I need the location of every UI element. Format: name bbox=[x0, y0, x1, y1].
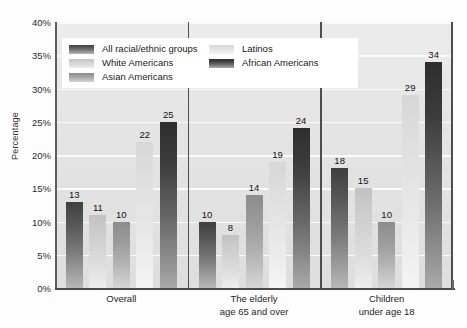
legend-label: White Americans bbox=[102, 56, 173, 70]
legend-spacer bbox=[209, 70, 359, 84]
legend-swatch-icon bbox=[209, 59, 234, 68]
legend-label: All racial/ethnic groups bbox=[102, 42, 198, 56]
x-category-label: Overall bbox=[106, 292, 136, 305]
x-category-label-line2: under age 18 bbox=[359, 305, 415, 318]
bar-value-label: 19 bbox=[272, 149, 283, 160]
bar-value-label: 15 bbox=[358, 175, 369, 186]
legend-item: Latinos bbox=[209, 42, 359, 56]
x-category-label-line1: Overall bbox=[106, 293, 136, 304]
bar: 15 bbox=[355, 188, 372, 288]
bar: 8 bbox=[222, 235, 239, 288]
bar-value-label: 34 bbox=[428, 49, 439, 60]
bar: 29 bbox=[402, 95, 419, 288]
bar: 22 bbox=[136, 142, 153, 288]
legend-swatch-icon bbox=[69, 59, 94, 68]
bar-value-label: 22 bbox=[140, 129, 151, 140]
y-tick-label: 25% bbox=[18, 116, 51, 127]
legend-item: White Americans bbox=[69, 56, 209, 70]
bar: 13 bbox=[66, 202, 83, 288]
bar-value-label: 10 bbox=[116, 209, 127, 220]
bar: 24 bbox=[293, 128, 310, 288]
x-axis-end-tick bbox=[452, 280, 454, 289]
x-category-label-line1: The elderly bbox=[230, 293, 277, 304]
bar-value-label: 11 bbox=[93, 202, 103, 213]
x-axis-line bbox=[55, 288, 455, 290]
bar-chart-figure: Percentage 0%5%10%15%20%25%30%35%40% 131… bbox=[0, 0, 467, 328]
bar: 10 bbox=[199, 222, 216, 289]
legend-item: Asian Americans bbox=[69, 70, 209, 84]
x-category-label-line2: age 65 and over bbox=[220, 305, 289, 318]
legend-swatch-icon bbox=[69, 73, 94, 82]
y-axis-line bbox=[55, 22, 57, 289]
y-tick-label: 5% bbox=[18, 249, 51, 260]
x-category-label: Childrenunder age 18 bbox=[359, 292, 415, 318]
x-axis-category-labels: OverallThe elderlyage 65 and overChildre… bbox=[55, 292, 453, 328]
y-tick-label: 30% bbox=[18, 83, 51, 94]
legend-item: All racial/ethnic groups bbox=[69, 42, 209, 56]
legend-label: African Americans bbox=[242, 56, 319, 70]
bar-value-label: 29 bbox=[405, 82, 416, 93]
y-tick-label: 10% bbox=[18, 216, 51, 227]
bar-value-label: 8 bbox=[228, 222, 233, 233]
legend-label: Latinos bbox=[242, 42, 273, 56]
bar-value-label: 10 bbox=[202, 209, 213, 220]
y-tick-label: 20% bbox=[18, 150, 51, 161]
y-tick-label: 40% bbox=[18, 17, 51, 28]
y-tick-label: 15% bbox=[18, 183, 51, 194]
legend-swatch-icon bbox=[209, 45, 234, 54]
chart-legend: All racial/ethnic groupsLatinosWhite Ame… bbox=[62, 38, 358, 88]
bar-value-label: 25 bbox=[163, 109, 174, 120]
x-category-label-line1: Children bbox=[369, 293, 404, 304]
legend-label: Asian Americans bbox=[102, 70, 173, 84]
y-tick-label: 0% bbox=[18, 283, 51, 294]
bar-value-label: 24 bbox=[296, 115, 307, 126]
bar: 11 bbox=[89, 215, 106, 288]
x-category-label: The elderlyage 65 and over bbox=[220, 292, 289, 318]
bar: 19 bbox=[269, 162, 286, 288]
bar-value-label: 10 bbox=[381, 209, 392, 220]
bar: 25 bbox=[160, 122, 177, 288]
y-tick-label: 35% bbox=[18, 50, 51, 61]
bar: 10 bbox=[113, 222, 130, 289]
bar: 34 bbox=[425, 62, 442, 288]
bar-value-label: 18 bbox=[334, 155, 345, 166]
legend-swatch-icon bbox=[69, 45, 94, 54]
y-axis-tick-labels: 0%5%10%15%20%25%30%35%40% bbox=[18, 22, 51, 288]
bar-value-label: 14 bbox=[249, 182, 260, 193]
bar-value-label: 13 bbox=[69, 189, 80, 200]
bar: 18 bbox=[331, 168, 348, 288]
bar: 10 bbox=[378, 222, 395, 289]
legend-item: African Americans bbox=[209, 56, 359, 70]
bar: 14 bbox=[246, 195, 263, 288]
